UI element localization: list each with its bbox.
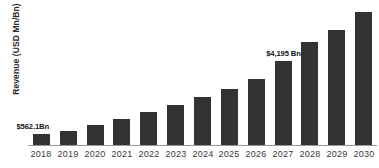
x-tick-2028: 2028 [297,149,323,159]
bar-rect-2029 [328,30,345,145]
bar-2019 [60,131,77,145]
bar-rect-2027 [275,61,292,145]
x-tick-2019: 2019 [55,149,81,159]
x-tick-2020: 2020 [82,149,108,159]
x-axis-tick-labels: 2018201920202021202220232024202520262027… [28,149,377,165]
bar-2022 [140,112,157,145]
x-tick-2029: 2029 [324,149,350,159]
bar-2018: $562.1Bn [33,134,50,145]
bar-rect-2028 [301,42,318,145]
bar-2021 [113,119,130,145]
bar-2023 [167,105,184,145]
bar-2025 [221,89,238,145]
bar-rect-2024 [194,97,211,145]
bar-2029 [328,30,345,145]
x-axis-line [28,145,377,146]
bar-2024 [194,97,211,145]
bar-value-label-2018: $562.1Bn [16,122,49,131]
x-tick-2027: 2027 [270,149,296,159]
x-tick-2022: 2022 [136,149,162,159]
bar-2030 [355,12,372,145]
bar-rect-2030 [355,12,372,145]
bar-2027: $4,195 Bn [275,61,292,145]
bar-rect-2025 [221,89,238,145]
x-tick-2024: 2024 [190,149,216,159]
x-tick-2018: 2018 [28,149,54,159]
bar-chart: Revenue (USD Mn/Bn) $562.1Bn$4,195 Bn 20… [0,0,379,168]
x-tick-2030: 2030 [351,149,377,159]
x-tick-2026: 2026 [243,149,269,159]
y-axis-title: Revenue (USD Mn/Bn) [11,0,21,109]
bar-2028 [301,42,318,145]
x-tick-2025: 2025 [216,149,242,159]
bar-rect-2021 [113,119,130,145]
bar-2020 [87,125,104,145]
bar-rect-2019 [60,131,77,145]
x-tick-2023: 2023 [163,149,189,159]
x-tick-2021: 2021 [109,149,135,159]
bar-2026 [248,79,265,145]
bar-rect-2022 [140,112,157,145]
bar-value-label-2027: $4,195 Bn [266,49,301,58]
bar-rect-2018 [33,134,50,145]
plot-area: $562.1Bn$4,195 Bn [28,4,377,146]
bar-rect-2023 [167,105,184,145]
bar-rect-2026 [248,79,265,145]
bar-rect-2020 [87,125,104,145]
